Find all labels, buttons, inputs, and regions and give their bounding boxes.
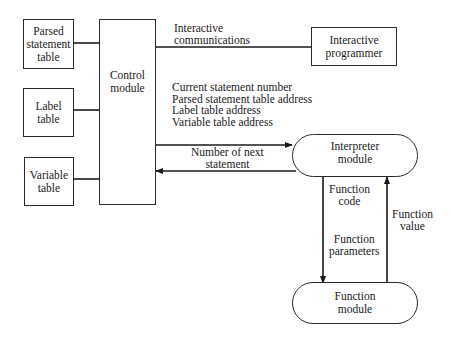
function-module-node: Function module — [292, 282, 418, 324]
interpreter-module-node: Interpreter module — [292, 134, 418, 177]
next-statement-label: Number of next statement — [191, 146, 264, 170]
control-module-node: Control module — [99, 19, 156, 205]
label-table-node: Label table — [23, 88, 74, 137]
control-to-interpreter-label: Current statement number Parsed statemen… — [172, 82, 312, 128]
interactive-programmer-node: Interactive programmer — [311, 27, 397, 66]
function-parameters-label: Function parameters — [329, 233, 379, 257]
function-value-label: Function value — [392, 208, 433, 232]
parsed-statement-table-node: Parsed statement table — [23, 19, 74, 69]
interactive-communications-label: Interactive communications — [174, 22, 250, 46]
variable-table-node: Variable table — [24, 157, 74, 206]
function-code-label: Function code — [329, 183, 370, 207]
